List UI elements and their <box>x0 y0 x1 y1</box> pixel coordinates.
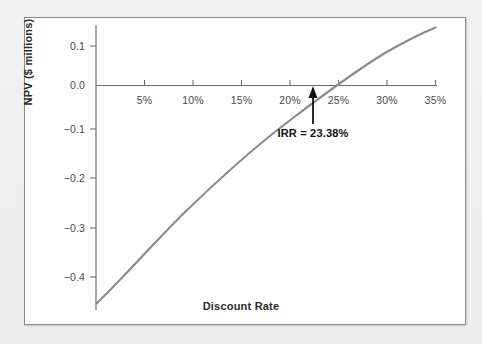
y-tick-label-0.1: 0.1 <box>60 40 85 52</box>
x-tick-label-15: 15% <box>231 94 252 106</box>
plot-frame <box>24 17 466 325</box>
x-tick-label-10: 10% <box>182 94 203 106</box>
x-tick-label-30: 30% <box>376 94 397 106</box>
figure-canvas: 5% 10% 15% 20% 25% 30% 35% 0.1 0.0 −0.1 … <box>0 0 482 344</box>
x-tick-label-35: 35% <box>425 94 446 106</box>
irr-annotation-label: IRR = 23.38% <box>277 127 348 139</box>
y-tick-label--0.1: −0.1 <box>55 123 85 135</box>
x-tick-label-5: 5% <box>137 94 152 106</box>
y-tick-label-0.0: 0.0 <box>60 79 85 91</box>
x-tick-label-25: 25% <box>328 94 349 106</box>
y-tick-label--0.2: −0.2 <box>55 172 85 184</box>
y-axis-title: NPV ($ millions) <box>22 0 34 132</box>
y-tick-label--0.4: −0.4 <box>55 271 85 283</box>
x-axis-title: Discount Rate <box>0 300 482 312</box>
y-tick-label--0.3: −0.3 <box>55 222 85 234</box>
x-tick-label-20: 20% <box>279 94 300 106</box>
